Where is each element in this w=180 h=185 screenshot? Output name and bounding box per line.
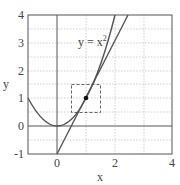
curve-annotation: y = x2	[78, 34, 107, 49]
y-axis-label: y	[3, 77, 9, 91]
parabola-curve	[28, 15, 115, 126]
svg-text:0: 0	[54, 156, 60, 170]
svg-text:4: 4	[169, 156, 175, 170]
x-axis-label: x	[97, 170, 103, 184]
tangent-point	[84, 96, 89, 101]
svg-text:1: 1	[18, 91, 24, 105]
svg-text:2: 2	[18, 64, 24, 78]
svg-text:4: 4	[18, 8, 24, 22]
svg-text:2: 2	[112, 156, 118, 170]
svg-text:-1: -1	[14, 147, 24, 161]
chart: 4 3 2 1 0 -1 0 2 4 x y y = x2	[0, 0, 180, 185]
x-tick-labels: 0 2 4	[54, 156, 175, 170]
y-tick-labels: 4 3 2 1 0 -1	[14, 8, 24, 161]
svg-text:0: 0	[18, 119, 24, 133]
svg-text:3: 3	[18, 36, 24, 50]
